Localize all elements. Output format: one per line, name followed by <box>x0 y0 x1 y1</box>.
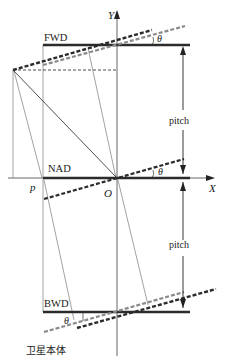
pitch-arrow-down-icon <box>180 299 186 308</box>
pitch-arrow-up-icon <box>180 46 186 55</box>
fwd-label: FWD <box>44 32 68 43</box>
pitch-dimension-upper: pitch <box>169 46 189 174</box>
nad-label: NAD <box>48 163 71 174</box>
nad-theta-label: θ <box>158 166 163 177</box>
origin-label: O <box>104 187 112 199</box>
satellite-body-label: 卫星本体 <box>26 344 66 356</box>
x-axis-label: X <box>208 182 217 194</box>
nad-view: NAD θ p O <box>29 159 190 199</box>
bwd-dashed-dark <box>77 289 216 328</box>
stereo-geometry-diagram: Y X FWD θ NAD θ p <box>0 0 226 363</box>
pitch-arrow-down-icon <box>180 165 186 174</box>
fwd-view: FWD θ <box>13 26 190 70</box>
pitch-label-lower: pitch <box>169 239 189 250</box>
pitch-label-upper: pitch <box>169 115 189 126</box>
x-axis-arrow-icon <box>206 175 215 181</box>
bwd-theta-label: θ <box>64 315 69 326</box>
pitch-arrow-up-icon <box>180 182 186 191</box>
fwd-dashed-dark <box>13 30 152 70</box>
fwd-theta-label: θ <box>157 33 162 44</box>
bwd-label: BWD <box>44 298 69 309</box>
pitch-dimension-lower: pitch <box>169 182 189 308</box>
projection-ray <box>13 70 116 177</box>
point-p-label: p <box>29 181 36 193</box>
y-axis-label: Y <box>108 9 116 21</box>
y-axis-arrow-icon <box>114 10 120 19</box>
